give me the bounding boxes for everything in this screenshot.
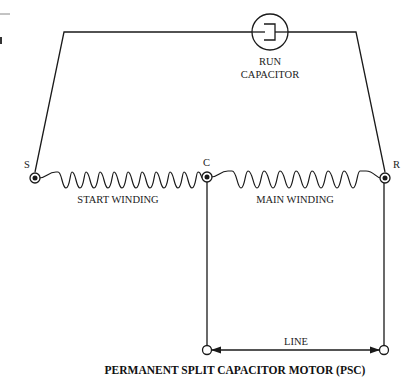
start-winding: START WINDING [39,172,203,205]
capacitor-icon [252,14,288,50]
edge-artifact [0,37,2,44]
terminal-c: C [202,157,212,182]
start-winding-label: START WINDING [77,194,159,205]
wire-capacitor-to-r [288,32,385,172]
psc-motor-diagram: RUN CAPACITOR START WINDING MAIN WINDING… [0,0,409,388]
line-supply: LINE [203,182,389,355]
line-label: LINE [284,336,308,347]
start-winding-coil [39,172,203,188]
main-winding-coil [211,171,381,188]
capacitor-label-line2: CAPACITOR [241,69,299,80]
line-terminal-left [203,346,212,355]
diagram-title: PERMANENT SPLIT CAPACITOR MOTOR (PSC) [105,364,366,377]
terminal-s-label: S [24,159,30,170]
main-winding-label: MAIN WINDING [256,194,334,205]
main-winding: MAIN WINDING [211,171,381,205]
capacitor-label-line1: RUN [259,56,282,67]
capacitor-circuit: RUN CAPACITOR [35,14,385,172]
wire-s-to-capacitor [35,32,252,172]
line-terminal-right [380,346,389,355]
terminal-r-label: R [393,159,400,170]
terminal-c-label: C [203,157,210,168]
